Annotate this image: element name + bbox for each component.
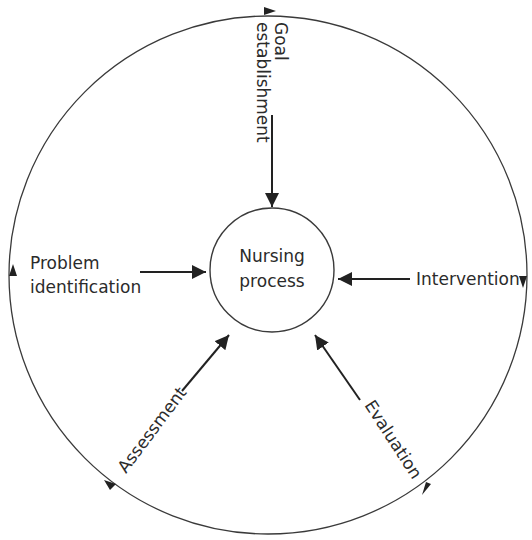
goal-label-line1: Goal [271,22,291,61]
problem-label-line2: identification [30,277,141,297]
nursing-process-diagram: Nursing process Goal establishment Probl… [0,0,532,540]
center-label-line1: Nursing [239,246,305,266]
stage-problem: Problem identification [30,253,206,297]
stage-goal: Goal establishment [253,22,291,207]
evaluation-label: Evaluation [361,396,427,482]
intervention-label: Intervention [416,269,520,289]
stage-evaluation: Evaluation [315,335,426,482]
stage-intervention: Intervention [338,269,520,289]
cycle-arrowhead-bottom-left [104,480,116,490]
cycle-arrowhead-left [9,264,17,276]
center-label-line2: process [239,271,304,291]
assessment-label: Assessment [113,383,191,477]
goal-label-line2: establishment [253,22,273,143]
assessment-arrow [182,335,229,391]
evaluation-arrow [315,335,360,400]
problem-label-line1: Problem [30,253,100,273]
cycle-arrowhead-top [264,7,276,15]
center-node-circle [210,208,334,332]
cycle-arrowhead-bottom-right [422,482,431,495]
cycle-arrowhead-right [519,276,527,288]
stage-assessment: Assessment [113,335,229,476]
